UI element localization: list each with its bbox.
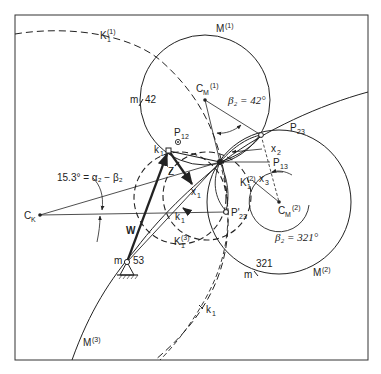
label-P23: P 23: [290, 122, 305, 135]
label-k1-low: k 1: [206, 304, 216, 317]
arc-angle-top: [217, 125, 241, 133]
svg-text:m: m: [130, 94, 138, 105]
svg-text:x: x: [191, 186, 196, 197]
arc-angle-K12: [272, 171, 292, 175]
svg-text:M: M: [216, 23, 224, 34]
svg-text:K: K: [174, 236, 181, 247]
label-angle-top: β₂ = 42°: [227, 94, 266, 106]
label-angle-left: 15.3° = α₂ − β₂: [57, 172, 123, 183]
svg-text:(3): (3): [181, 234, 190, 242]
svg-text:(1): (1): [107, 28, 116, 36]
svg-text:3: 3: [265, 179, 269, 186]
svg-text:(1): (1): [210, 82, 219, 90]
tick-m321: [254, 271, 258, 276]
svg-text:M: M: [313, 267, 321, 278]
point-P23prime: [224, 210, 229, 215]
point-P12-dot: [177, 141, 179, 143]
label-M1: M (1): [216, 22, 234, 34]
diagram-stage: K 1 (1) M (1) m 42 C M (1) β₂ = 42° P 12…: [0, 0, 381, 374]
label-Z: Z: [168, 166, 174, 177]
line-P23-CM2-dashed: [261, 135, 279, 202]
svg-text:x: x: [271, 143, 276, 154]
point-k1: [166, 148, 171, 153]
label-x3: x 3: [259, 173, 269, 186]
svg-text:K: K: [31, 216, 36, 223]
point-P13: [217, 159, 223, 165]
label-K1-1: K 1 (1): [100, 28, 116, 43]
svg-text:P: P: [290, 122, 297, 133]
label-CM1: C M (1): [196, 82, 219, 96]
arc-angle-left-2: [97, 216, 100, 242]
svg-text:23: 23: [297, 128, 305, 135]
line-CK-P23prime: [40, 212, 226, 215]
svg-text:M: M: [83, 337, 91, 348]
svg-text:1: 1: [160, 150, 164, 157]
point-CM1: [203, 98, 207, 102]
svg-text:1: 1: [247, 183, 251, 190]
kinematic-diagram: K 1 (1) M (1) m 42 C M (1) β₂ = 42° P 12…: [0, 0, 381, 374]
svg-text:53: 53: [133, 255, 145, 266]
svg-text:K: K: [240, 177, 247, 188]
svg-text:2: 2: [277, 149, 281, 156]
link-W: [127, 154, 167, 262]
svg-text:(2): (2): [247, 175, 256, 183]
svg-text:K: K: [100, 30, 107, 41]
label-K1-2: K 1 (2): [240, 175, 256, 190]
svg-text:P: P: [273, 157, 280, 168]
label-m321: 321 m: [244, 258, 273, 280]
svg-text:12: 12: [181, 133, 189, 140]
label-M2: M (2): [313, 266, 331, 278]
svg-text:1: 1: [107, 36, 111, 43]
svg-text:W: W: [126, 225, 136, 236]
point-CK: [38, 213, 42, 217]
label-K1-3: K 1 (3): [174, 234, 190, 249]
svg-text:1: 1: [197, 192, 201, 199]
svg-text:23: 23: [239, 213, 247, 220]
svg-text:13: 13: [280, 163, 288, 170]
svg-text:42: 42: [145, 94, 157, 105]
point-P23: [259, 133, 264, 138]
svg-text:P: P: [174, 127, 181, 138]
point-m53: [124, 259, 129, 264]
label-P13: P 13: [273, 157, 288, 170]
label-W: W: [126, 225, 136, 236]
point-CM2: [277, 200, 281, 204]
label-x2: x 2: [271, 143, 281, 156]
svg-text:1: 1: [181, 217, 185, 224]
label-P12: P 12: [174, 127, 189, 140]
svg-text:m: m: [244, 269, 252, 280]
svg-text:(2): (2): [292, 204, 301, 212]
label-CM2: C M (2): [278, 204, 301, 218]
curve-M3: [72, 92, 368, 360]
svg-text:(3): (3): [92, 336, 101, 344]
svg-text:Z: Z: [168, 166, 174, 177]
svg-text:M: M: [285, 211, 291, 218]
label-P23prime: P' 23: [231, 207, 247, 220]
svg-text:321: 321: [256, 258, 273, 269]
svg-text:M: M: [203, 89, 209, 96]
label-angle-bottom: β₂ = 321°: [274, 231, 319, 243]
svg-text:x: x: [259, 173, 264, 184]
svg-text:(1): (1): [225, 22, 234, 30]
svg-text:1: 1: [181, 242, 185, 249]
label-CK: C K: [24, 210, 36, 223]
svg-text:1: 1: [212, 310, 216, 317]
svg-text:(2): (2): [322, 266, 331, 274]
label-M3: M (3): [83, 336, 101, 348]
svg-text:m: m: [114, 255, 122, 266]
